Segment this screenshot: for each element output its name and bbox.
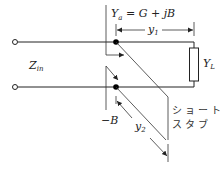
stub-matching-diagram: Ya = G + jB y1 Zin YL −B y2 ショート スタブ — [0, 0, 222, 172]
short-stub-label-line2: スタブ — [172, 118, 211, 130]
input-terminal-bottom — [13, 85, 18, 90]
ya-label: Ya = G + jB — [111, 7, 175, 22]
input-terminal-top — [13, 40, 18, 45]
y1-label: y1 — [147, 23, 159, 37]
load-element — [190, 48, 199, 81]
yl-label: YL — [203, 57, 215, 71]
short-stub-label-line1: ショート — [172, 105, 222, 116]
minus-b-label: −B — [101, 114, 118, 127]
y2-label: y2 — [134, 120, 146, 134]
zin-label: Zin — [28, 59, 44, 73]
